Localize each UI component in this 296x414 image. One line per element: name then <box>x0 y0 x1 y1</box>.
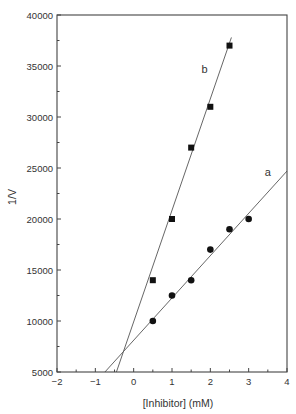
data-point-a <box>245 216 252 223</box>
fit-line-a <box>105 171 287 372</box>
y-tick-label: 35000 <box>27 61 53 72</box>
series-label-b: b <box>202 63 208 75</box>
x-tick-label: −2 <box>52 376 63 387</box>
y-tick-label: 30000 <box>27 112 53 123</box>
axis-ticks <box>57 15 287 372</box>
data-markers <box>150 43 252 325</box>
data-point-a <box>169 292 176 299</box>
lineweaver-burk-chart: −2−1012345000100001500020000250003000035… <box>0 0 296 414</box>
x-tick-label: 0 <box>131 376 136 387</box>
y-tick-label: 5000 <box>32 367 53 378</box>
x-tick-label: 2 <box>208 376 213 387</box>
y-tick-label: 20000 <box>27 214 53 225</box>
plot-frame <box>57 15 287 372</box>
data-point-b <box>150 277 156 283</box>
x-tick-label: 1 <box>169 376 174 387</box>
y-tick-label: 10000 <box>27 316 53 327</box>
data-point-a <box>188 277 195 284</box>
data-point-b <box>169 216 175 222</box>
fit-line-b <box>116 37 231 372</box>
y-axis-label: 1/V <box>6 189 18 205</box>
series-labels: ab <box>202 63 272 178</box>
data-point-a <box>226 226 233 233</box>
y-tick-label: 40000 <box>27 10 53 21</box>
fit-lines <box>105 37 287 372</box>
y-tick-label: 15000 <box>27 265 53 276</box>
y-tick-label: 25000 <box>27 163 53 174</box>
data-point-b <box>188 145 194 151</box>
data-point-b <box>207 104 213 110</box>
series-label-a: a <box>265 166 272 178</box>
x-axis-label: [Inhibitor] (mM) <box>143 397 214 409</box>
x-tick-label: 4 <box>284 376 289 387</box>
data-point-a <box>207 246 214 253</box>
data-point-a <box>150 318 157 325</box>
x-tick-label: 3 <box>246 376 251 387</box>
x-tick-label: −1 <box>90 376 101 387</box>
data-point-b <box>227 43 233 49</box>
tick-labels: −2−1012345000100001500020000250003000035… <box>27 10 290 388</box>
